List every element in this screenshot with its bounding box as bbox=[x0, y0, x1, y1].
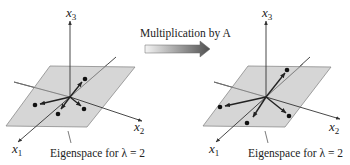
caption-pointer bbox=[265, 131, 268, 143]
x3-sub: 3 bbox=[72, 12, 77, 22]
vector-tip-dot bbox=[82, 107, 87, 112]
vector-tip-dot bbox=[245, 121, 250, 126]
panel-before bbox=[6, 21, 142, 143]
transformation-arrow bbox=[145, 41, 210, 57]
x2-sub: 2 bbox=[140, 126, 145, 136]
vector-tip-dot bbox=[83, 77, 88, 82]
x3-sub: 3 bbox=[268, 12, 273, 22]
vector-tip-dot bbox=[285, 68, 290, 73]
vector-tip-dot bbox=[218, 105, 223, 110]
x2-sub: 2 bbox=[335, 126, 340, 136]
x1-axis-label: x1 bbox=[12, 142, 22, 160]
caption-pointer bbox=[68, 131, 71, 143]
x1-sub: 1 bbox=[215, 148, 220, 158]
vector-tip-dot bbox=[56, 112, 61, 117]
eigenspace-diagram bbox=[0, 0, 350, 165]
x1-axis-label: x1 bbox=[209, 142, 219, 160]
panel-after bbox=[203, 21, 340, 143]
x3-axis-label: x3 bbox=[262, 6, 272, 24]
x3-axis-label: x3 bbox=[66, 6, 76, 24]
eigenspace-caption: Eigenspace for λ = 2 bbox=[248, 147, 343, 159]
x2-axis-label: x2 bbox=[134, 120, 144, 138]
vector-tip-dot bbox=[287, 114, 292, 119]
vector-tip-dot bbox=[33, 103, 38, 108]
x1-sub: 1 bbox=[18, 148, 23, 158]
x2-axis-label: x2 bbox=[329, 120, 339, 138]
transformation-title: Multiplication by A bbox=[140, 27, 231, 39]
eigenspace-caption: Eigenspace for λ = 2 bbox=[50, 147, 145, 159]
